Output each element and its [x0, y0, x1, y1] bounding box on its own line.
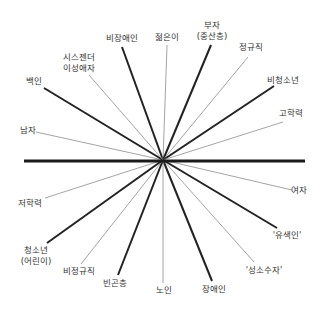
spoke-line-bijeonggyujik: [81, 160, 163, 264]
spoke-line-jangaein: [163, 160, 212, 281]
spoke-label-jeonggyujik: 정규직: [239, 42, 263, 53]
spoke-label-cheongsonyeon: 청소년(어린이): [21, 245, 52, 267]
spoke-label-yeoja: 여자: [291, 185, 307, 196]
spoke-label-buja: 부자(중산층): [197, 20, 228, 42]
spoke-label-bijangaein: 비장애인: [106, 33, 138, 44]
spoke-label-bicheongsonyeon: 비청소년: [267, 75, 299, 86]
spoke-line-jeolmeuni: [163, 45, 167, 160]
spoke-line-bicheongsonyeon: [163, 86, 274, 160]
spoke-label-jeolmeuni: 젊은이: [155, 32, 179, 43]
spoke-line-yeoja: [163, 160, 292, 190]
spoke-line-bijangaein: [122, 47, 163, 160]
spoke-line-seongsosuja: [163, 160, 254, 262]
spoke-line-gohakryeok: [163, 122, 283, 160]
spoke-line-jeohakryeok: [45, 160, 163, 198]
spoke-label-siseujendeo: 시스젠더이성애자: [63, 52, 95, 74]
spoke-label-jangaein: 장애인: [202, 284, 226, 295]
spoke-line-buja: [163, 45, 211, 160]
spoke-label-noin: 노인: [156, 285, 172, 296]
privilege-wheel-diagram: 비장애인젊은이부자(중산층)정규직비청소년고학력여자'유색인''성소수자'장애인…: [0, 0, 327, 309]
spoke-line-namja: [36, 132, 163, 160]
spoke-label-baegin: 백인: [26, 76, 42, 87]
spoke-label-bingoncheung: 빈곤층: [103, 278, 127, 289]
spoke-line-baegin: [44, 88, 163, 160]
spoke-line-cheongsonyeon: [47, 160, 163, 243]
spoke-label-yusaegin: '유색인': [273, 230, 302, 241]
spoke-line-jeonggyujik: [163, 57, 248, 160]
spoke-label-namja: 남자: [20, 125, 36, 136]
spoke-label-bijeonggyujik: 비정규직: [63, 266, 95, 277]
spoke-label-jeohakryeok: 저학력: [18, 198, 42, 209]
spoke-label-seongsosuja: '성소수자': [246, 265, 283, 276]
spoke-line-yusaegin: [163, 160, 277, 228]
spoke-line-siseujendeo: [89, 75, 163, 160]
spoke-label-gohakryeok: 고학력: [279, 108, 303, 119]
